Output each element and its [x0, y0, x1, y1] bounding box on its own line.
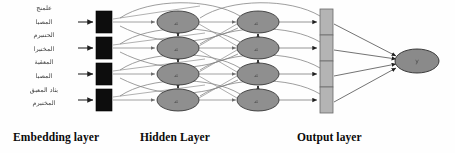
final-output-group: y — [395, 49, 439, 73]
hidden-backward-node-3[interactable] — [237, 63, 279, 85]
input-token-line-6: المصبا — [8, 70, 80, 84]
input-token-line-1: علمنج — [8, 2, 80, 16]
embedding-node-2[interactable] — [96, 37, 112, 59]
hidden-backward-glyph-3: h — [253, 74, 259, 77]
input-token-line-2: المصبا — [8, 16, 80, 30]
edge-out4-final — [334, 68, 396, 102]
input-token-text-block: علمنج المصبا الحتنبرم المختبرا المعقبة ا… — [8, 2, 80, 111]
input-token-line-7: بثاد المعبق — [8, 84, 80, 98]
hidden-forward-node-4[interactable] — [157, 89, 199, 111]
hidden-forward-node-1[interactable] — [157, 11, 199, 33]
hidden-to-output-edges — [279, 22, 317, 100]
skip-arc-group — [120, 3, 320, 96]
input-token-line-4: المختبرا — [8, 43, 80, 57]
output-node-4[interactable] — [320, 87, 333, 113]
input-token-line-5: المعقبة — [8, 56, 80, 70]
output-converge-edges — [334, 24, 396, 102]
hidden-forward-glyph-2: h — [173, 48, 179, 51]
caption-embedding-layer: Embedding layer — [13, 131, 99, 143]
hidden-backward-glyph-4: h — [253, 100, 259, 103]
input-token-line-8: المختبرم — [8, 97, 80, 111]
output-nodes-group — [320, 9, 333, 113]
input-token-line-3: الحتنبرم — [8, 29, 80, 43]
hidden-forward-node-3[interactable] — [157, 63, 199, 85]
network-diagram: h h h h h h h h y علمن — [0, 0, 455, 153]
output-node-3[interactable] — [320, 61, 333, 87]
hidden-forward-node-2[interactable] — [157, 37, 199, 59]
embedding-node-4[interactable] — [96, 89, 112, 111]
hidden-backward-node-4[interactable] — [237, 89, 279, 111]
hidden-cross-links — [199, 22, 237, 100]
hidden-backward-glyph-2: h — [253, 48, 259, 51]
embedding-nodes-group — [96, 11, 112, 111]
hidden-backward-glyph-1: h — [253, 22, 259, 25]
caption-hidden-layer: Hidden Layer — [140, 131, 210, 143]
hidden-forward-glyph-1: h — [173, 22, 179, 25]
input-arrows-group — [78, 22, 93, 100]
hidden-forward-glyph-4: h — [173, 100, 179, 103]
output-node-2[interactable] — [320, 35, 333, 61]
output-node-1[interactable] — [320, 9, 333, 35]
embedding-node-3[interactable] — [96, 63, 112, 85]
caption-output-layer: Output layer — [297, 131, 362, 143]
hidden-backward-node-2[interactable] — [237, 37, 279, 59]
hidden-backward-node-1[interactable] — [237, 11, 279, 33]
embedding-node-1[interactable] — [96, 11, 112, 33]
edge-out3-final — [334, 64, 396, 76]
hidden-forward-glyph-3: h — [173, 74, 179, 77]
final-output-glyph: y — [415, 57, 419, 65]
